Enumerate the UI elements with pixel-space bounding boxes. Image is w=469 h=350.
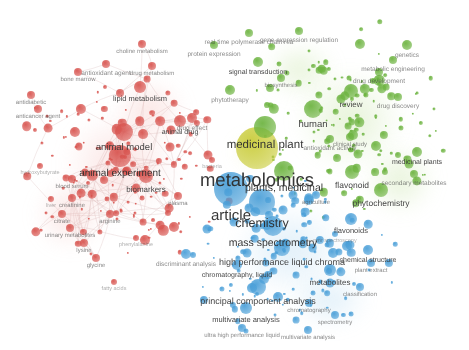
node-dot[interactable] — [383, 167, 387, 171]
node-label[interactable]: discriminant analysis — [156, 260, 216, 267]
node-choline-metabolism[interactable] — [138, 40, 146, 48]
node-dot[interactable] — [371, 168, 379, 176]
node-dot[interactable] — [292, 288, 295, 291]
node-dot[interactable] — [347, 75, 352, 80]
node-flavonoids[interactable] — [345, 213, 357, 225]
node-dot[interactable] — [293, 317, 300, 324]
node-label[interactable]: metabolic engineering — [361, 65, 425, 72]
node-arginine[interactable] — [106, 210, 114, 218]
node-dot[interactable] — [433, 107, 436, 110]
node-secondary-metabolites[interactable] — [410, 170, 418, 178]
node-label[interactable]: lysine — [76, 248, 91, 254]
node-label[interactable]: choline metabolism — [116, 49, 167, 55]
node-dot[interactable] — [171, 100, 178, 107]
node-dot[interactable] — [156, 116, 166, 126]
node-label[interactable]: arginine — [99, 219, 120, 225]
node-label[interactable]: drug effect — [177, 124, 208, 131]
node-label[interactable]: urinary metabolites — [45, 233, 96, 239]
node-label[interactable]: chemical structure — [340, 257, 397, 264]
node-dot[interactable] — [240, 249, 246, 255]
node-label[interactable]: secondary metabolites — [381, 179, 446, 186]
node-label[interactable]: protein expression — [187, 50, 240, 57]
node-label[interactable]: genetics — [395, 51, 419, 58]
node-lipid-metabolism[interactable] — [134, 81, 146, 93]
node-label[interactable]: drug metabolism — [130, 71, 174, 77]
node-drug-effect[interactable] — [187, 113, 197, 123]
node-medicinal-plants[interactable] — [412, 147, 422, 157]
node-label[interactable]: human — [298, 118, 327, 129]
node-label[interactable]: biomarkers — [126, 184, 166, 193]
node-dot[interactable] — [40, 229, 43, 232]
node-dot[interactable] — [355, 114, 360, 119]
node-label[interactable]: chromatography, liquid — [202, 272, 272, 279]
node-dot[interactable] — [333, 154, 341, 162]
node-clinical-study[interactable] — [346, 133, 354, 141]
node-human[interactable] — [304, 100, 322, 118]
node-drug-discovery[interactable] — [394, 93, 402, 101]
node-dot[interactable] — [334, 77, 337, 80]
node-label[interactable]: drug development — [353, 77, 405, 84]
node-label[interactable]: biosynthesis — [264, 83, 297, 89]
node-label[interactable]: classification — [343, 292, 377, 298]
node-dot[interactable] — [301, 222, 307, 228]
node-dot[interactable] — [348, 312, 353, 317]
node-glycine[interactable] — [92, 254, 100, 262]
node-label[interactable]: phytotherapy — [211, 96, 249, 103]
node-dot[interactable] — [333, 109, 340, 116]
node-dot[interactable] — [332, 124, 335, 127]
node-label[interactable]: blood serum — [55, 184, 88, 190]
node-label[interactable]: metabolites — [310, 277, 351, 286]
node-label[interactable]: drug discovery — [377, 102, 419, 109]
node-dot[interactable] — [77, 113, 80, 116]
node-label[interactable]: clinical study — [333, 142, 367, 148]
node-medicinal-plant[interactable] — [254, 116, 276, 138]
node-label[interactable]: animal model — [96, 141, 153, 152]
node-signal-transduction[interactable] — [253, 57, 263, 67]
node-dot[interactable] — [156, 220, 165, 229]
node-label[interactable]: lipid metabolism — [113, 94, 167, 103]
node-dot[interactable] — [126, 200, 129, 203]
node-label[interactable]: fatty acids — [102, 286, 127, 292]
node-dot[interactable] — [138, 129, 148, 139]
node-label[interactable]: chemistry — [235, 216, 288, 230]
node-dot[interactable] — [150, 110, 156, 116]
node-ultra-high-performance-liquid[interactable] — [238, 324, 246, 332]
node-plasma[interactable] — [174, 192, 182, 200]
node-dot[interactable] — [301, 208, 310, 217]
node-dot[interactable] — [279, 153, 282, 156]
node-chemical-structure[interactable] — [363, 245, 373, 255]
node-label[interactable]: real time polymerase chain rea — [205, 38, 294, 45]
node-label[interactable]: anticancer agent — [16, 114, 60, 120]
node-label[interactable]: agriculture — [302, 200, 330, 206]
node-label[interactable]: medicinal plants — [392, 159, 442, 166]
node-principal-component-analysis[interactable] — [250, 279, 266, 295]
node-discriminant-analysis[interactable] — [181, 249, 191, 259]
node-multivariate-analysis[interactable] — [304, 326, 312, 334]
node-label[interactable]: plants, medicinal — [245, 182, 323, 194]
node-dot[interactable] — [151, 218, 155, 222]
node-label[interactable]: flavonoid — [335, 180, 369, 190]
node-dot[interactable] — [287, 112, 290, 115]
node-liver[interactable] — [48, 196, 54, 202]
node-label[interactable]: citrate — [54, 219, 70, 225]
node-dot[interactable] — [188, 151, 192, 155]
node-label[interactable]: liver — [46, 203, 56, 209]
node-dot[interactable] — [177, 158, 181, 162]
node-dot[interactable] — [203, 224, 212, 233]
node-dot[interactable] — [363, 93, 366, 96]
node-dot[interactable] — [276, 61, 281, 66]
node-dot[interactable] — [324, 290, 330, 296]
node-phytotherapy[interactable] — [225, 85, 235, 95]
node-dot[interactable] — [120, 208, 123, 211]
node-label[interactable]: principal component analysis — [200, 296, 316, 306]
node-label[interactable]: phenylalanine — [119, 242, 153, 248]
node-dot[interactable] — [43, 124, 52, 133]
node-dot[interactable] — [399, 125, 404, 130]
node-dot[interactable] — [40, 142, 43, 145]
node-classification[interactable] — [356, 283, 364, 291]
node-label[interactable]: creatinine — [59, 203, 85, 209]
node-dot[interactable] — [90, 195, 93, 198]
node-hydroxybutyrate[interactable] — [37, 163, 43, 169]
node-dot[interactable] — [362, 133, 365, 136]
node-dot[interactable] — [372, 100, 375, 103]
